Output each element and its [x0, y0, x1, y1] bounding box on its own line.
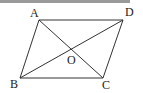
label-c: C: [102, 78, 110, 92]
label-b: B: [10, 77, 18, 91]
parallelogram-diagram: A D B C O: [0, 0, 143, 93]
label-a: A: [30, 6, 39, 20]
diagonal-bd: [20, 20, 123, 78]
side-dc: [103, 20, 123, 78]
label-o: O: [67, 53, 76, 67]
label-d: D: [125, 5, 134, 19]
